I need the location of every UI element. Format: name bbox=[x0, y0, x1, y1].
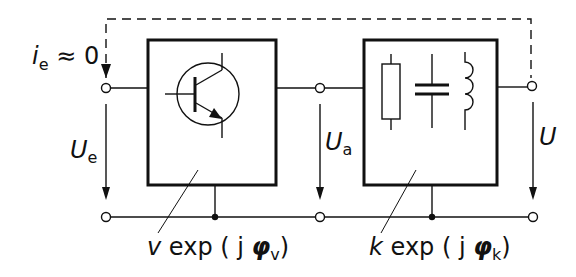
capacitor-icon bbox=[415, 54, 449, 128]
input-voltage-label: Ue bbox=[70, 136, 97, 167]
feedback-dashed-line bbox=[106, 19, 531, 78]
input-terminal-top bbox=[102, 84, 111, 93]
mid-terminal-top bbox=[316, 84, 325, 93]
output-terminal-bottom bbox=[529, 213, 538, 222]
amp-leader-line bbox=[158, 170, 198, 233]
input-terminal-bottom bbox=[102, 213, 111, 222]
feedback-gain-label: k exp ( j φk) bbox=[369, 233, 511, 264]
resistor-icon bbox=[382, 54, 400, 130]
amplifier-gain-label: v exp ( j φv) bbox=[147, 233, 289, 264]
feedback-leader-line bbox=[381, 170, 416, 233]
feedback-block bbox=[364, 40, 497, 185]
mid-voltage-label: Ua bbox=[325, 128, 352, 159]
output-voltage-arrow-icon bbox=[529, 187, 537, 200]
output-terminal-top bbox=[528, 82, 537, 91]
transistor-icon bbox=[165, 53, 239, 138]
input-voltage-arrow-icon bbox=[102, 187, 110, 200]
mid-voltage-arrow-icon bbox=[316, 187, 324, 200]
input-current-label: ie ≈ 0 bbox=[32, 42, 99, 74]
feedback-junction-dot bbox=[429, 214, 435, 220]
circuit-diagram: ie ≈ 0 Ue Ua U v exp ( j φv) k exp ( j φ… bbox=[0, 0, 576, 277]
input-current-arrow-icon bbox=[101, 64, 111, 78]
inductor-icon bbox=[465, 52, 473, 130]
mid-terminal-bottom bbox=[316, 213, 325, 222]
amp-junction-dot bbox=[212, 214, 218, 220]
output-voltage-label: U bbox=[539, 123, 557, 151]
